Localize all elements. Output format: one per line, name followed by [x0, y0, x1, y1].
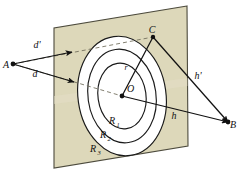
- point-a-dot: [11, 62, 16, 67]
- label-distance-d-prime: d': [33, 39, 41, 50]
- label-point-b: B: [230, 119, 236, 130]
- point-o-dot: [120, 94, 125, 99]
- label-distance-d: d: [33, 68, 39, 79]
- label-distance-h: h: [172, 110, 177, 121]
- point-c-dot: [151, 35, 155, 39]
- svg-text:1: 1: [116, 121, 119, 128]
- label-point-c: C: [149, 24, 156, 35]
- svg-text:R: R: [99, 129, 106, 140]
- svg-text:R: R: [89, 143, 96, 154]
- label-point-o: O: [127, 83, 134, 94]
- fresnel-zone-diagram: A B C O d' d h' h r R 1 R 2 R 3: [0, 0, 240, 181]
- svg-text:R: R: [108, 115, 115, 126]
- label-point-a: A: [2, 59, 10, 70]
- label-distance-h-prime: h': [194, 70, 202, 81]
- figure-root: A B C O d' d h' h r R 1 R 2 R 3: [0, 0, 240, 181]
